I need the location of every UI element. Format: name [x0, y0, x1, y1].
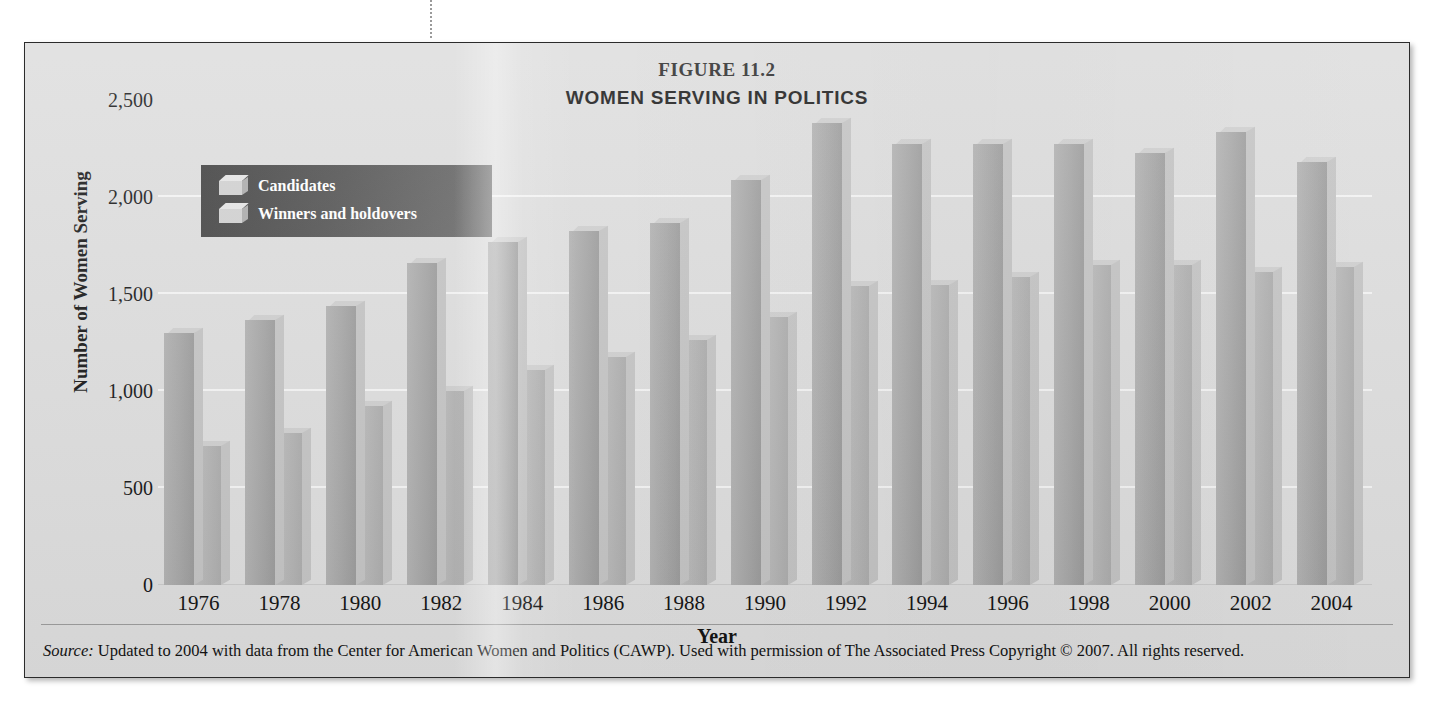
bar-candidates[interactable] [488, 242, 518, 585]
x-tick-label: 1978 [239, 591, 320, 616]
source-label: Source: [43, 641, 94, 660]
x-tick-label: 2004 [1291, 591, 1372, 616]
x-tick-label: 1992 [806, 591, 887, 616]
x-tick-label: 1988 [644, 591, 725, 616]
x-tick-label: 1996 [967, 591, 1048, 616]
legend-swatch-cube-icon [219, 206, 247, 223]
bar-group [1048, 100, 1129, 585]
bar-candidates[interactable] [731, 180, 761, 585]
legend-label-winners: Winners and holdovers [258, 205, 417, 223]
x-tick-label: 1990 [725, 591, 806, 616]
bar-candidates[interactable] [812, 123, 842, 585]
x-tick-label: 1994 [886, 591, 967, 616]
bar-candidates[interactable] [569, 231, 599, 585]
bar-candidates[interactable] [1135, 153, 1165, 585]
x-axis-ticks: 1976197819801982198419861988199019921994… [158, 591, 1372, 616]
bar-candidates[interactable] [973, 144, 1003, 585]
bar-group [967, 100, 1048, 585]
source-caption: Source: Updated to 2004 with data from t… [43, 641, 1393, 661]
legend-label-candidates: Candidates [258, 177, 335, 195]
chart-legend: Candidates Winners and holdovers [201, 165, 492, 237]
x-tick-label: 1984 [482, 591, 563, 616]
bar-group [1210, 100, 1291, 585]
bar-candidates[interactable] [407, 263, 437, 585]
x-tick-label: 1986 [563, 591, 644, 616]
bar-group [482, 100, 563, 585]
bar-group [886, 100, 967, 585]
bar-candidates[interactable] [650, 223, 680, 585]
x-tick-label: 1980 [320, 591, 401, 616]
source-divider [41, 624, 1393, 625]
bar-group [725, 100, 806, 585]
bar-candidates[interactable] [892, 144, 922, 585]
bar-group [806, 100, 887, 585]
x-tick-label: 2000 [1129, 591, 1210, 616]
y-axis-ticks: 05001,0001,5002,0002,500 [58, 100, 153, 585]
x-tick-label: 1976 [158, 591, 239, 616]
bar-group [1291, 100, 1372, 585]
y-tick-label: 1,500 [63, 283, 153, 306]
x-tick-label: 1982 [401, 591, 482, 616]
legend-item-winners: Winners and holdovers [219, 200, 492, 228]
bar-group [1129, 100, 1210, 585]
bar-candidates[interactable] [164, 333, 194, 585]
bar-candidates[interactable] [1297, 162, 1327, 585]
bar-group [563, 100, 644, 585]
x-tick-label: 2002 [1210, 591, 1291, 616]
x-tick-label: 1998 [1048, 591, 1129, 616]
y-tick-label: 0 [63, 574, 153, 597]
y-tick-label: 2,500 [63, 89, 153, 112]
y-tick-label: 1,000 [63, 380, 153, 403]
legend-item-candidates: Candidates [219, 172, 492, 200]
legend-swatch-cube-icon [219, 178, 247, 195]
bar-candidates[interactable] [1054, 144, 1084, 585]
crop-mark [430, 0, 432, 38]
bar-candidates[interactable] [245, 320, 275, 585]
source-text: Updated to 2004 with data from the Cente… [94, 641, 1244, 660]
bar-group [644, 100, 725, 585]
figure-panel: FIGURE 11.2 WOMEN SERVING IN POLITICS Nu… [24, 42, 1410, 678]
bar-candidates[interactable] [1216, 132, 1246, 585]
figure-number: FIGURE 11.2 [25, 59, 1409, 81]
y-tick-label: 500 [63, 477, 153, 500]
bar-candidates[interactable] [326, 306, 356, 585]
y-tick-label: 2,000 [63, 186, 153, 209]
